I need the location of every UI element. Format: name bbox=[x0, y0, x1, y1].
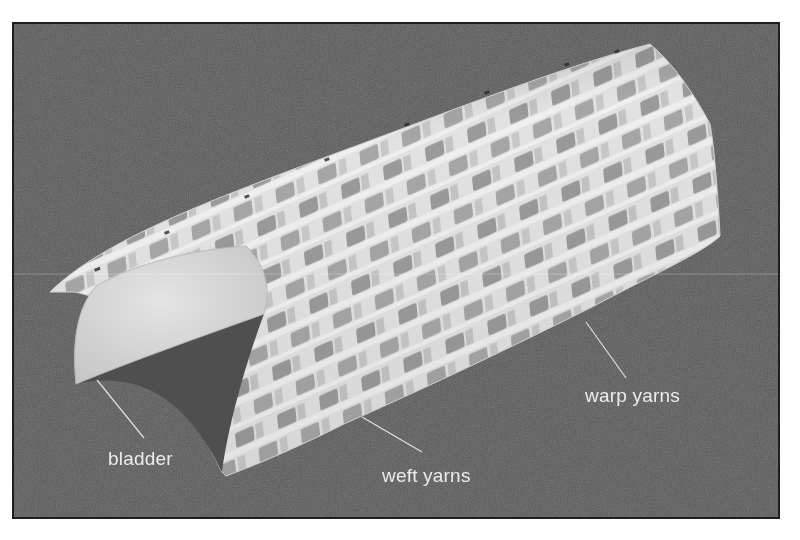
label-warp-yarns: warp yarns bbox=[585, 385, 680, 407]
page-margin bbox=[0, 519, 800, 540]
label-bladder: bladder bbox=[108, 448, 173, 470]
figure-frame: bladder weft yarns warp yarns bbox=[12, 22, 780, 519]
woven-cylinder-illustration bbox=[14, 24, 780, 519]
label-weft-yarns: weft yarns bbox=[382, 465, 471, 487]
